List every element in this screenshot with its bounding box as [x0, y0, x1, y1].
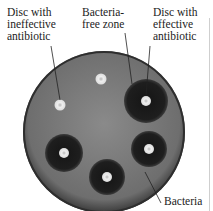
ineffective-disc-top [96, 74, 107, 85]
effective-disc-top-right [124, 79, 168, 123]
effective-disc-bottom [89, 159, 125, 195]
ineffective-disc-left [55, 100, 66, 111]
label-ineffective-disc: Disc with ineffective antibiotic [7, 6, 56, 42]
label-clear-zone: Bacteria- free zone [82, 6, 124, 30]
effective-disc-left [45, 134, 83, 172]
label-bacteria: Bacteria [164, 195, 202, 207]
effective-disc-right [131, 131, 167, 167]
label-effective-disc: Disc with effective antibiotic [153, 6, 197, 42]
